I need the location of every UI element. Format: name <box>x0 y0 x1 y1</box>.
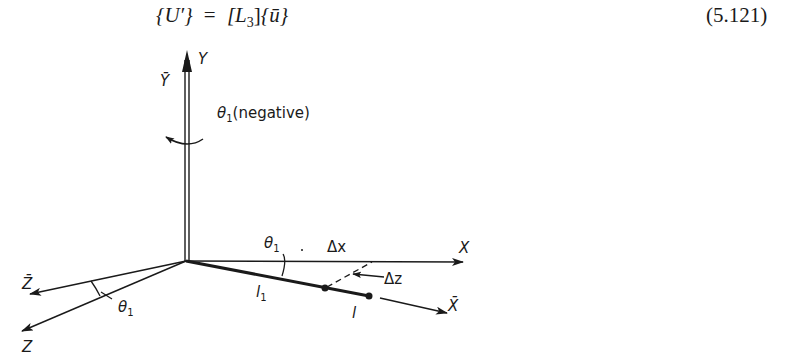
x-axis <box>186 261 463 262</box>
angle-z-arc-icon <box>91 281 100 296</box>
node-l <box>366 293 373 300</box>
x-bar-axis <box>380 298 447 313</box>
angle-x-arc-icon <box>282 254 285 276</box>
coordinate-rotation-diagram: Y Ȳ θ1(negative) X X̄ Δz Δx θ1 l1 l Z̄ Z… <box>0 0 785 364</box>
delta-x-label: Δx <box>327 238 346 256</box>
node-l1-label: l1 <box>256 283 267 303</box>
delta-z-pointer-arrow <box>353 274 384 277</box>
x-axis-label: X <box>458 239 470 257</box>
angle-x-label: θ1 <box>264 234 280 254</box>
rotation-angle-label: θ1(negative) <box>217 104 310 124</box>
dot-mark <box>301 249 303 251</box>
z-bar-axis <box>30 261 186 294</box>
member-line <box>186 261 369 296</box>
z-axis <box>22 261 186 331</box>
angle-z-label: θ1 <box>118 298 134 318</box>
y-bar-axis-label: Ȳ <box>160 72 171 90</box>
y-axis-label: Y <box>198 50 209 68</box>
delta-z-label: Δz <box>384 270 402 288</box>
y-axis <box>182 50 192 261</box>
z-axis-label: Z <box>21 338 33 356</box>
delta-z-dashed-line <box>327 262 372 287</box>
node-l1 <box>322 285 329 292</box>
x-bar-axis-label: X̄ <box>447 296 459 315</box>
node-l-label: l <box>352 304 357 322</box>
z-bar-axis-label: Z̄ <box>21 274 33 293</box>
y-axis-arrowhead-icon <box>182 50 192 72</box>
